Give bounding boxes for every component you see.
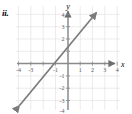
x-tick-label-2: 2: [91, 67, 94, 73]
y-tick-label-2: 2: [62, 36, 65, 42]
y-tick-label--3: -3: [60, 98, 65, 104]
x-tick-label-3: 3: [103, 67, 106, 73]
x-axis-label: x: [120, 60, 125, 69]
y-tick-label--4: -4: [60, 108, 65, 114]
coordinate-plane-chart: -4 -3 -1 1 2 3 4 4 3 2 -1 -2 -3 -4 x y: [0, 0, 132, 114]
figure-ii: ii.: [0, 0, 132, 114]
y-tick-label-3: 3: [62, 24, 65, 30]
y-tick-label--1: -1: [60, 73, 65, 79]
y-tick-label--2: -2: [60, 85, 65, 91]
x-tick-label--3: -3: [28, 67, 33, 73]
y-tick-label-4: 4: [62, 12, 65, 18]
x-tick-label--4: -4: [16, 67, 21, 73]
y-axis-label: y: [65, 2, 70, 11]
x-tick-label-1: 1: [79, 67, 82, 73]
x-tick-label-4: 4: [116, 67, 119, 73]
x-tick-label--1: -1: [53, 67, 58, 73]
